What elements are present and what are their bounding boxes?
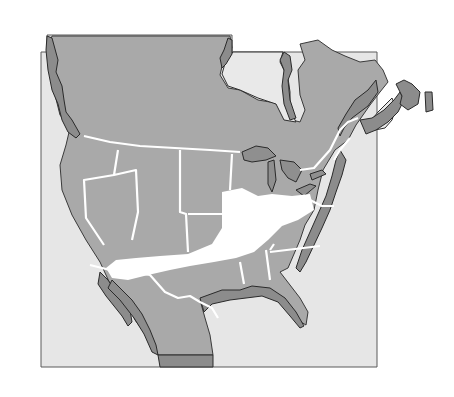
central-america bbox=[158, 355, 213, 367]
north-america-map bbox=[0, 0, 454, 397]
east-newfoundland bbox=[425, 92, 433, 112]
